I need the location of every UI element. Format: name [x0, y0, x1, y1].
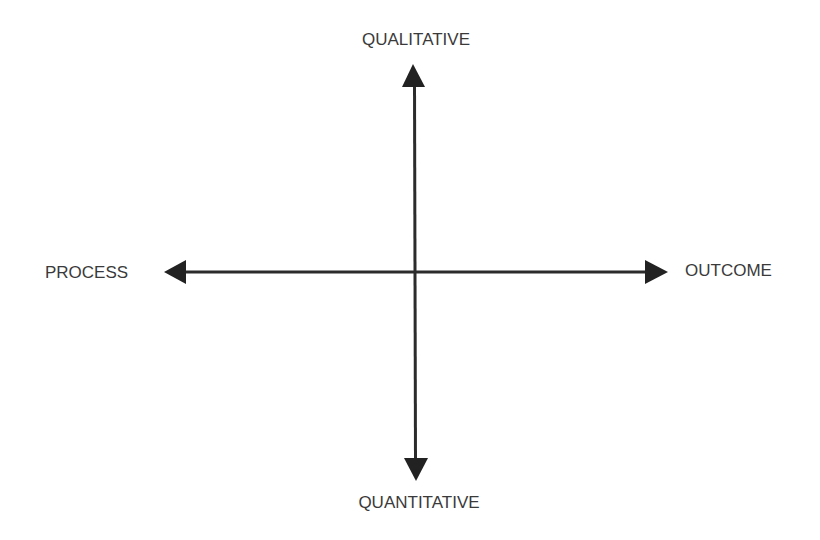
arrow-up-icon	[402, 64, 425, 87]
axis-label-qualitative: QUALITATIVE	[362, 30, 470, 50]
axis-label-outcome: OUTCOME	[685, 261, 772, 281]
arrow-left-icon	[164, 260, 186, 284]
arrow-right-icon	[645, 260, 668, 284]
axis-label-quantitative: QUANTITATIVE	[358, 493, 479, 513]
arrow-down-icon	[404, 458, 428, 481]
axis-label-process: PROCESS	[45, 263, 128, 283]
